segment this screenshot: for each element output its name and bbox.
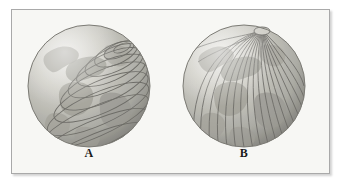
globe-b-highlight bbox=[183, 25, 305, 147]
globe-a-highlight bbox=[28, 25, 150, 147]
figure-frame: A B bbox=[11, 9, 330, 174]
globe-a-label: A bbox=[69, 146, 109, 160]
globes-illustration bbox=[12, 10, 331, 175]
globes-stage: A B bbox=[12, 10, 331, 175]
globe-b bbox=[183, 25, 305, 163]
globe-b-label: B bbox=[224, 146, 264, 160]
